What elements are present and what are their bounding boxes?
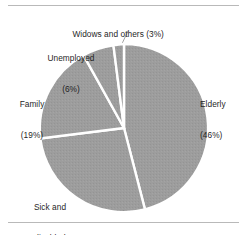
pie-label-sick-line2: disabled [17, 233, 83, 235]
pie-label-family-name: Family [3, 99, 61, 109]
pie-label-elderly: Elderly (46%) [200, 79, 246, 161]
pie-label-unemployed-name: Unemployed [40, 53, 102, 63]
pie-label-sick-and-disabled: Sick and disabled (27%) [17, 182, 83, 235]
pie-label-sick-line1: Sick and [17, 202, 83, 212]
pie-label-elderly-value: (46%) [200, 130, 246, 140]
pie-chart-figure: Widows and others (3%) Unemployed (6%) F… [0, 0, 247, 235]
pie-label-family: Family (19%) [3, 79, 61, 161]
pie-label-family-value: (19%) [3, 130, 61, 140]
pie-label-elderly-name: Elderly [200, 99, 246, 109]
